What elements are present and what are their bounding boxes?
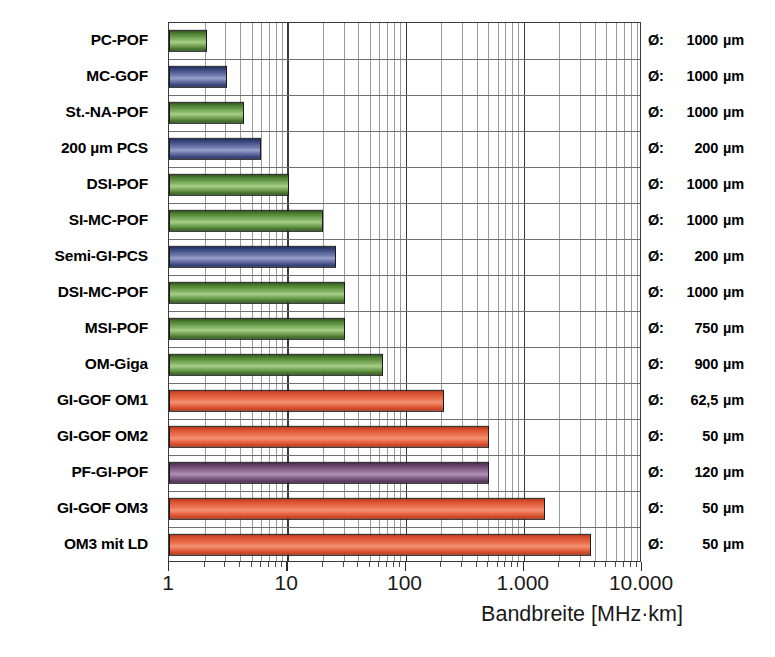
x-tick-label: 100 — [387, 571, 422, 595]
diameter-label: Ø:1000µm — [648, 68, 744, 84]
x-tick-label: 1.000 — [496, 571, 549, 595]
diameter-label: Ø:200µm — [648, 248, 744, 264]
tick-minor — [558, 562, 559, 567]
tick-minor — [476, 562, 477, 567]
diameter-unit: µm — [718, 32, 744, 48]
tick-minor — [268, 562, 269, 567]
tick-major — [168, 562, 169, 571]
diameter-value: 120 — [668, 464, 718, 480]
x-tick-label: 10.000 — [609, 571, 673, 595]
category-label: GI-GOF OM3 — [57, 499, 148, 517]
tick-minor — [393, 562, 394, 567]
tick-major — [641, 562, 642, 571]
tick-minor — [497, 562, 498, 567]
diameter-key: Ø: — [648, 500, 668, 516]
diameter-label: Ø:1000µm — [648, 212, 744, 228]
tick-minor — [517, 562, 518, 567]
diameter-annotations: Ø:1000µmØ:1000µmØ:1000µmØ:200µmØ:1000µmØ… — [648, 22, 775, 562]
plot-area — [168, 22, 641, 562]
tick-minor — [260, 562, 261, 567]
category-axis-labels: PC-POFMC-GOFSt.-NA-POF200 µm PCSDSI-POFS… — [0, 22, 160, 562]
diameter-key: Ø: — [648, 248, 668, 264]
bar-gi-gof-om2 — [169, 426, 489, 448]
tick-minor — [440, 562, 441, 567]
diameter-key: Ø: — [648, 464, 668, 480]
tick-minor — [461, 562, 462, 567]
diameter-unit: µm — [718, 212, 744, 228]
x-axis-tick-labels: 1101001.00010.000 — [0, 571, 775, 601]
tick-minor — [204, 562, 205, 567]
bar-dsi-mc-pof — [169, 282, 345, 304]
diameter-label: Ø:50µm — [648, 536, 744, 552]
tick-minor — [615, 562, 616, 567]
tick-minor — [386, 562, 387, 567]
diameter-key: Ø: — [648, 32, 668, 48]
diameter-value: 50 — [668, 500, 718, 516]
diameter-key: Ø: — [648, 176, 668, 192]
diameter-unit: µm — [718, 68, 744, 84]
tick-minor — [605, 562, 606, 567]
tick-major — [405, 562, 406, 571]
tick-minor — [511, 562, 512, 567]
diameter-value: 1000 — [668, 176, 718, 192]
bar-st-na-pof — [169, 102, 244, 124]
diameter-value: 50 — [668, 536, 718, 552]
tick-minor — [343, 562, 344, 567]
bar-mc-gof — [169, 66, 227, 88]
tick-minor — [399, 562, 400, 567]
diameter-unit: µm — [718, 140, 744, 156]
diameter-unit: µm — [718, 428, 744, 444]
bar-om-giga — [169, 354, 383, 376]
x-axis-title: Bandbreite [MHz·km] — [0, 602, 683, 627]
diameter-unit: µm — [718, 392, 744, 408]
tick-minor — [281, 562, 282, 567]
tick-minor — [224, 562, 225, 567]
category-label: PF-GI-POF — [71, 463, 148, 481]
diameter-label: Ø:1000µm — [648, 284, 744, 300]
bar-si-mc-pof — [169, 210, 323, 232]
category-label: GI-GOF OM1 — [57, 391, 148, 409]
diameter-value: 1000 — [668, 212, 718, 228]
tick-minor — [357, 562, 358, 567]
x-tick-label: 10 — [275, 571, 298, 595]
diameter-label: Ø:120µm — [648, 464, 744, 480]
category-label: DSI-POF — [87, 175, 148, 193]
category-label: 200 µm PCS — [61, 139, 148, 157]
tick-major — [286, 562, 287, 571]
bar-series — [169, 23, 640, 561]
diameter-value: 1000 — [668, 68, 718, 84]
diameter-value: 62,5 — [668, 392, 718, 408]
tick-minor — [378, 562, 379, 567]
category-label: DSI-MC-POF — [58, 283, 148, 301]
diameter-label: Ø:1000µm — [648, 32, 744, 48]
x-axis-ticks — [168, 562, 641, 571]
diameter-label: Ø:900µm — [648, 356, 744, 372]
diameter-unit: µm — [718, 248, 744, 264]
diameter-label: Ø:200µm — [648, 140, 744, 156]
tick-minor — [630, 562, 631, 567]
tick-major — [523, 562, 524, 571]
tick-minor — [275, 562, 276, 567]
diameter-value: 750 — [668, 320, 718, 336]
diameter-value: 1000 — [668, 284, 718, 300]
tick-minor — [487, 562, 488, 567]
diameter-label: Ø:62,5µm — [648, 392, 744, 408]
diameter-label: Ø:1000µm — [648, 104, 744, 120]
category-label: OM-Giga — [85, 355, 148, 373]
category-label: MC-GOF — [86, 67, 148, 85]
diameter-unit: µm — [718, 104, 744, 120]
diameter-unit: µm — [718, 176, 744, 192]
diameter-label: Ø:1000µm — [648, 176, 744, 192]
category-label: GI-GOF OM2 — [57, 427, 148, 445]
diameter-value: 200 — [668, 248, 718, 264]
diameter-unit: µm — [718, 320, 744, 336]
tick-minor — [239, 562, 240, 567]
bar-pc-pof — [169, 30, 207, 52]
tick-minor — [251, 562, 252, 567]
diameter-unit: µm — [718, 356, 744, 372]
bandwidth-bar-chart: PC-POFMC-GOFSt.-NA-POF200 µm PCSDSI-POFS… — [0, 0, 775, 657]
diameter-value: 50 — [668, 428, 718, 444]
diameter-key: Ø: — [648, 68, 668, 84]
diameter-value: 1000 — [668, 32, 718, 48]
bar-dsi-pof — [169, 174, 289, 196]
